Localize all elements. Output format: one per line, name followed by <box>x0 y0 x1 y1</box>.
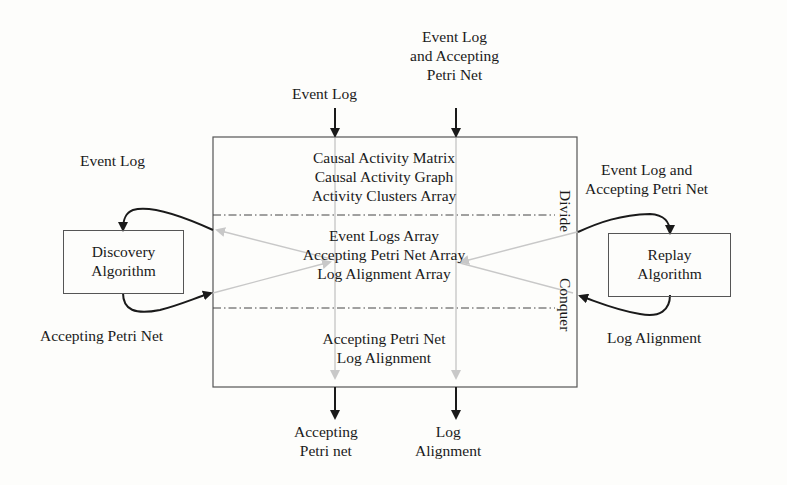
section-conquer-bottom: Accepting Petri Net Log Alignment <box>213 329 555 367</box>
label-conquer: Conquer <box>556 278 574 331</box>
item-accepting-petri-net: Accepting Petri Net <box>213 329 555 348</box>
label-replay-output: Log Alignment <box>607 328 701 347</box>
item-causal-activity-graph: Causal Activity Graph <box>213 167 555 186</box>
label-line: and Accepting <box>410 46 499 65</box>
label-line: Discovery <box>63 242 184 261</box>
label-divide: Divide <box>556 190 574 232</box>
label-line: Petri Net <box>410 65 499 84</box>
item-log-alignment: Log Alignment <box>213 348 555 367</box>
label-discovery-input: Event Log <box>80 151 145 170</box>
label-line: Algorithm <box>608 264 731 283</box>
item-activity-clusters-array: Activity Clusters Array <box>213 186 555 205</box>
label-input-event-log: Event Log <box>292 84 357 103</box>
label-line: Log <box>415 422 481 441</box>
label-line: Algorithm <box>63 261 184 280</box>
label-line: Replay <box>608 245 731 264</box>
item-event-logs-array: Event Logs Array <box>213 226 555 245</box>
label-line: Event Log <box>410 27 499 46</box>
item-log-alignment-array: Log Alignment Array <box>213 264 555 283</box>
section-divide-top: Causal Activity Matrix Causal Activity G… <box>213 148 555 205</box>
label-line: Petri net <box>294 441 358 460</box>
label-line: Alignment <box>415 441 481 460</box>
label-input-event-log-petri-net: Event Log and Accepting Petri Net <box>410 27 499 84</box>
label-output-petri-net: Accepting Petri net <box>294 422 358 460</box>
section-middle: Event Logs Array Accepting Petri Net Arr… <box>213 226 555 283</box>
label-line: Accepting <box>294 422 358 441</box>
arrow-to-discovery <box>123 209 213 230</box>
item-accepting-petri-net-array: Accepting Petri Net Array <box>213 245 555 264</box>
label-text: Event Log <box>292 84 357 103</box>
label-replay-input: Event Log and Accepting Petri Net <box>585 160 708 198</box>
label-discovery-output: Accepting Petri Net <box>40 326 163 345</box>
arrow-from-discovery <box>123 293 211 312</box>
discovery-algorithm-label: Discovery Algorithm <box>63 242 184 280</box>
arrow-from-replay <box>580 295 670 315</box>
item-causal-activity-matrix: Causal Activity Matrix <box>213 148 555 167</box>
label-line: Event Log and <box>585 160 708 179</box>
label-line: Accepting Petri Net <box>585 179 708 198</box>
replay-algorithm-label: Replay Algorithm <box>608 245 731 283</box>
arrow-to-replay <box>578 214 670 233</box>
label-output-log-alignment: Log Alignment <box>415 422 481 460</box>
